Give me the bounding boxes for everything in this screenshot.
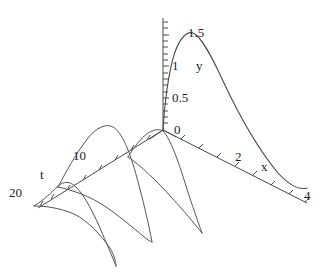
x-tick-label-2: 2 xyxy=(235,150,242,163)
plot-figure: 1.5 1 0.5 0 y 2 4 x 10 20 t xyxy=(0,0,322,274)
t-axis-label: t xyxy=(40,168,44,181)
t-tick-label-10: 10 xyxy=(73,149,86,162)
y-tick-label-1: 1 xyxy=(172,59,179,72)
curve-t14-return xyxy=(58,187,152,242)
origin-tick-label-0: 0 xyxy=(174,123,181,136)
y-tick-label-1-5: 1.5 xyxy=(188,26,204,39)
t-tick-label-20: 20 xyxy=(9,186,22,199)
x-axis xyxy=(163,130,309,203)
y-axis-ticks xyxy=(163,22,169,123)
y-axis-label: y xyxy=(196,59,203,72)
x-tick-label-4: 4 xyxy=(304,189,311,202)
plot-canvas xyxy=(0,0,322,274)
x-axis-label: x xyxy=(261,160,268,173)
curve-t20 xyxy=(34,182,116,266)
t-axis xyxy=(38,130,163,208)
y-tick-label-0-5: 0.5 xyxy=(172,91,188,104)
x-axis-line xyxy=(163,130,307,203)
curve-t0-main xyxy=(163,33,307,189)
curve-t7-return xyxy=(128,157,202,233)
x-axis-ticks xyxy=(181,135,309,202)
t-axis-line xyxy=(38,130,163,208)
t-axis-ticks xyxy=(40,135,150,206)
